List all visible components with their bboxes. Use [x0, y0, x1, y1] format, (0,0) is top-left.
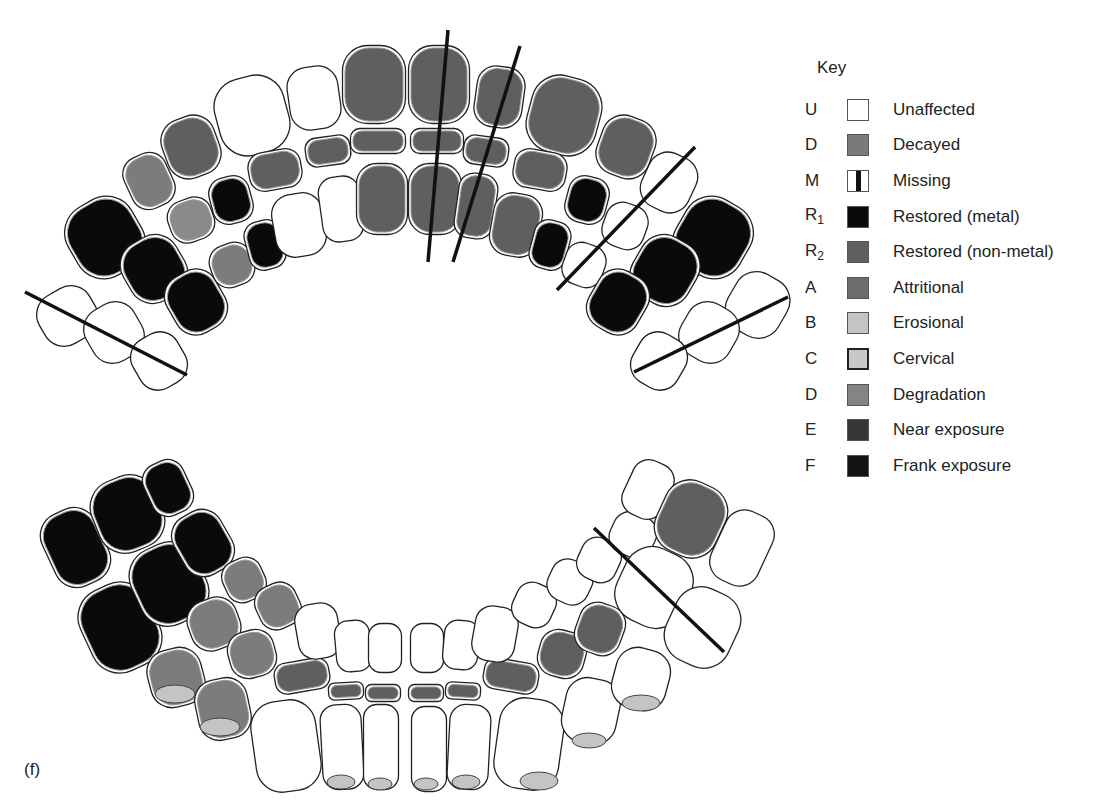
- legend-code: R1: [805, 205, 847, 227]
- legend-label: Attritional: [893, 278, 964, 298]
- legend-swatch: [847, 384, 869, 406]
- tooth: [284, 63, 343, 132]
- legend-item: FFrank exposure: [805, 448, 1105, 484]
- legend-code: A: [805, 278, 847, 298]
- tooth: [247, 696, 324, 795]
- erosion-area: [200, 718, 240, 736]
- panel-label: (f): [24, 760, 40, 780]
- legend-item: ENear exposure: [805, 412, 1105, 448]
- legend-swatch: [847, 241, 869, 263]
- legend-code: U: [805, 100, 847, 120]
- legend-item: UUnaffected: [805, 92, 1105, 128]
- legend-label: Decayed: [893, 135, 960, 155]
- tooth: [304, 134, 353, 169]
- tooth: [481, 656, 541, 696]
- tooth: [272, 656, 332, 696]
- legend-code: B: [805, 313, 847, 333]
- lower-arch: [33, 454, 781, 796]
- legend-item: BErosional: [805, 306, 1105, 342]
- tooth: [471, 63, 527, 130]
- legend-item: MMissing: [805, 163, 1105, 199]
- legend-swatch: [847, 170, 869, 192]
- legend-swatch: [847, 206, 869, 228]
- legend-swatch: [847, 99, 869, 121]
- tooth: [343, 46, 406, 124]
- legend-label: Frank exposure: [893, 456, 1011, 476]
- tooth: [366, 685, 401, 702]
- legend-swatch: [847, 312, 869, 334]
- tooth: [369, 624, 402, 673]
- legend-rows: UUnaffectedDDecayedMMissingR1Restored (m…: [805, 92, 1105, 484]
- legend-swatch: [847, 348, 869, 370]
- legend-label: Near exposure: [893, 420, 1005, 440]
- erosion-area: [520, 772, 558, 790]
- tooth: [409, 46, 470, 124]
- tooth: [357, 164, 408, 235]
- legend-title: Key: [817, 58, 1105, 78]
- legend-swatch: [847, 419, 869, 441]
- legend-label: Cervical: [893, 349, 954, 369]
- erosion-area: [155, 685, 195, 703]
- legend-item: R1Restored (metal): [805, 199, 1105, 235]
- legend-item: CCervical: [805, 341, 1105, 377]
- legend-label: Unaffected: [893, 100, 975, 120]
- tooth: [351, 129, 406, 154]
- legend-item: R2Restored (non-metal): [805, 234, 1105, 270]
- legend-item: DDecayed: [805, 128, 1105, 164]
- legend-swatch: [847, 455, 869, 477]
- tooth: [411, 624, 444, 673]
- legend-code: F: [805, 456, 847, 476]
- legend-code: C: [805, 349, 847, 369]
- legend-label: Restored (non-metal): [893, 242, 1054, 262]
- legend-code: R2: [805, 241, 847, 263]
- upper-arch: [29, 46, 799, 398]
- legend-code: M: [805, 171, 847, 191]
- erosion-area: [414, 778, 438, 790]
- tooth: [328, 682, 364, 701]
- legend-code: E: [805, 420, 847, 440]
- erosion-area: [452, 775, 480, 789]
- tooth: [364, 705, 399, 790]
- erosion-area: [327, 775, 355, 789]
- legend-swatch: [847, 277, 869, 299]
- legend-item: AAttritional: [805, 270, 1105, 306]
- legend-swatch: [847, 134, 869, 156]
- erosion-area: [572, 733, 606, 748]
- tooth: [445, 682, 481, 701]
- erosion-area: [368, 778, 392, 790]
- legend-item: DDegradation: [805, 377, 1105, 413]
- legend-label: Degradation: [893, 385, 986, 405]
- legend-label: Missing: [893, 171, 951, 191]
- tooth: [409, 685, 444, 702]
- legend-label: Erosional: [893, 313, 964, 333]
- legend-code: D: [805, 385, 847, 405]
- legend-label: Restored (metal): [893, 207, 1020, 227]
- erosion-area: [622, 695, 660, 711]
- tooth: [333, 619, 372, 673]
- legend: Key UUnaffectedDDecayedMMissingR1Restore…: [805, 58, 1105, 484]
- legend-code: D: [805, 135, 847, 155]
